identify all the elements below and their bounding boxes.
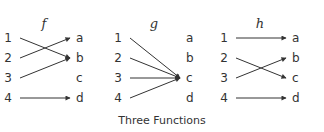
codomain-label: c xyxy=(76,71,83,85)
codomain-label: b xyxy=(76,51,84,65)
domain-label: 1 xyxy=(114,31,122,45)
codomain-label: a xyxy=(186,31,193,45)
mapping-arrow xyxy=(130,58,180,78)
function-name: g xyxy=(150,16,158,31)
domain-label: 4 xyxy=(4,91,12,105)
codomain-label: a xyxy=(76,31,83,45)
mapping-arrow xyxy=(130,38,180,78)
domain-label: 3 xyxy=(114,71,122,85)
mapping-arrow xyxy=(130,78,180,98)
three-functions-diagram: f1234abcdg1234abcdh1234abcd Three Functi… xyxy=(0,0,324,132)
domain-label: 1 xyxy=(220,31,228,45)
domain-label: 2 xyxy=(114,51,122,65)
codomain-label: c xyxy=(292,71,299,85)
codomain-label: d xyxy=(76,91,84,105)
codomain-label: a xyxy=(292,31,299,45)
domain-label: 4 xyxy=(114,91,122,105)
mapping-arrow xyxy=(20,58,70,78)
domain-label: 4 xyxy=(220,91,228,105)
codomain-label: b xyxy=(186,51,194,65)
codomain-label: b xyxy=(292,51,300,65)
function-panel-f: f1234abcd xyxy=(4,16,83,105)
function-panel-g: g1234abcd xyxy=(114,16,193,105)
domain-label: 3 xyxy=(220,71,228,85)
function-panel-h: h1234abcd xyxy=(220,16,299,105)
codomain-label: d xyxy=(186,91,194,105)
function-name: f xyxy=(41,16,49,31)
diagram-caption: Three Functions xyxy=(117,114,206,127)
codomain-label: c xyxy=(186,71,193,85)
codomain-label: d xyxy=(292,91,300,105)
domain-label: 2 xyxy=(4,51,12,65)
domain-label: 2 xyxy=(220,51,228,65)
function-name: h xyxy=(256,16,264,31)
domain-label: 1 xyxy=(4,31,12,45)
domain-label: 3 xyxy=(4,71,12,85)
